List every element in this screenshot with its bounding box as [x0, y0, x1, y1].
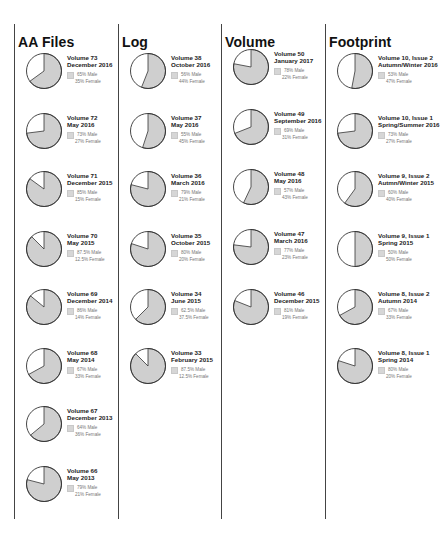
male-percent: 73% Male [77, 132, 97, 139]
legend: 73% Male 27% Female [378, 132, 440, 146]
pie-chart [129, 52, 167, 90]
volume-label: Volume 67 [67, 407, 112, 414]
legend: 78% Male 22% Female [274, 68, 313, 82]
date-label: June 2015 [171, 297, 209, 304]
male-swatch-icon [67, 190, 74, 197]
legend: 67% Male 33% Female [67, 367, 101, 381]
female-swatch-icon [378, 80, 383, 85]
pie-item: Volume 10, Issue 2 Autumn/Winter 2016 53… [326, 52, 430, 102]
pie-slice-male [355, 232, 373, 267]
male-percent: 67% Male [388, 308, 408, 315]
legend-female: 35% Female [67, 79, 112, 86]
male-percent: 60% Male [388, 190, 408, 197]
male-percent: 62.5% Male [181, 308, 205, 315]
volume-label: Volume 34 [171, 290, 209, 297]
pie-info: Volume 8, Issue 2 Autumn 2014 67% Male 3… [378, 290, 429, 322]
female-swatch-icon [378, 258, 383, 263]
legend-female: 47% Female [378, 79, 438, 86]
volume-label: Volume 48 [274, 170, 308, 177]
pie-info: Volume 67 December 2013 64% Male 36% Fem… [67, 407, 112, 439]
female-percent: 31% Female [282, 135, 308, 142]
female-percent: 44% Female [179, 79, 205, 86]
pie-info: Volume 35 October 2015 80% Male 20% Fema… [171, 232, 210, 264]
legend: 53% Male 47% Female [378, 72, 438, 86]
volume-label: Volume 49 [274, 110, 321, 117]
date-label: December 2013 [67, 414, 112, 421]
female-percent: 23% Female [282, 255, 308, 262]
female-swatch-icon [67, 198, 72, 203]
legend: 50% Male 50% Female [378, 250, 429, 264]
female-swatch-icon [67, 433, 72, 438]
pie-item: Volume 73 December 2016 65% Male 35% Fem… [15, 52, 119, 102]
female-swatch-icon [274, 76, 279, 81]
female-percent: 12.5% Female [75, 257, 105, 264]
legend-male: 60% Male [378, 190, 434, 197]
legend-male: 67% Male [67, 367, 101, 374]
legend-female: 15% Female [67, 197, 112, 204]
pie-item: Volume 10, Issue 1 Spring/Summer 2016 73… [326, 112, 430, 162]
legend: 81% Male 19% Female [274, 308, 319, 322]
legend-female: 27% Female [378, 139, 440, 146]
pie-info: Volume 8, Issue 1 Spring 2014 80% Male 2… [378, 349, 429, 381]
legend: 55% Male 45% Female [171, 132, 205, 146]
male-swatch-icon [171, 72, 178, 79]
pie-item: Volume 8, Issue 2 Autumn 2014 67% Male 3… [326, 288, 430, 338]
female-swatch-icon [274, 196, 279, 201]
volume-label: Volume 73 [67, 54, 112, 61]
legend: 64% Male 36% Female [67, 425, 112, 439]
female-swatch-icon [67, 258, 72, 263]
legend-male: 77% Male [274, 248, 308, 255]
pie-chart [336, 112, 374, 150]
female-percent: 45% Female [179, 139, 205, 146]
column-aa-files: AA Files Volume 73 December 2016 65% Mal… [14, 24, 15, 519]
legend: 79% Male 21% Female [171, 190, 205, 204]
female-swatch-icon [274, 256, 279, 261]
male-swatch-icon [274, 248, 281, 255]
male-percent: 73% Male [388, 132, 408, 139]
male-percent: 85% Male [77, 190, 97, 197]
male-swatch-icon [67, 132, 74, 139]
legend-female: 14% Female [67, 315, 112, 322]
female-percent: 40% Female [386, 197, 412, 204]
male-swatch-icon [67, 425, 74, 432]
male-percent: 65% Male [77, 72, 97, 79]
volume-label: Volume 72 [67, 114, 101, 121]
female-swatch-icon [378, 375, 383, 380]
legend-male: 62.5% Male [171, 308, 209, 315]
pie-chart [129, 347, 167, 385]
pie-info: Volume 68 May 2014 67% Male 33% Female [67, 349, 101, 381]
pie-item: Volume 48 May 2016 57% Male 43% Female [222, 168, 326, 218]
female-percent: 36% Female [75, 432, 101, 439]
volume-label: Volume 70 [67, 232, 105, 239]
male-percent: 50% Male [388, 250, 408, 257]
volume-label: Volume 9, Issue 1 [378, 232, 429, 239]
male-swatch-icon [378, 250, 385, 257]
legend-male: 73% Male [67, 132, 101, 139]
pie-info: Volume 48 May 2016 57% Male 43% Female [274, 170, 308, 202]
date-label: March 2016 [274, 237, 308, 244]
male-swatch-icon [67, 367, 74, 374]
column-title: AA Files [18, 34, 74, 50]
pie-info: Volume 46 December 2015 81% Male 19% Fem… [274, 290, 319, 322]
male-percent: 57% Male [284, 188, 304, 195]
male-swatch-icon [171, 308, 178, 315]
date-label: December 2015 [274, 297, 319, 304]
male-swatch-icon [171, 190, 178, 197]
legend-male: 50% Male [378, 250, 429, 257]
pie-item: Volume 47 March 2016 77% Male 23% Female [222, 228, 326, 278]
pie-item: Volume 33 February 2015 87.5% Male 12.5%… [119, 347, 223, 397]
pie-chart [25, 112, 63, 150]
female-percent: 21% Female [75, 492, 101, 499]
pie-item: Volume 69 December 2014 86% Male 14% Fem… [15, 288, 119, 338]
pie-chart [25, 405, 63, 443]
male-percent: 77% Male [284, 248, 304, 255]
legend-male: 57% Male [274, 188, 308, 195]
pie-item: Volume 36 March 2016 79% Male 21% Female [119, 170, 223, 220]
pie-item: Volume 49 September 2016 69% Male 31% Fe… [222, 108, 326, 158]
female-percent: 22% Female [282, 75, 308, 82]
pie-info: Volume 66 May 2013 79% Male 21% Female [67, 467, 101, 499]
legend: 73% Male 27% Female [67, 132, 101, 146]
legend-female: 50% Female [378, 257, 429, 264]
pie-item: Volume 8, Issue 1 Spring 2014 80% Male 2… [326, 347, 430, 397]
volume-label: Volume 10, Issue 1 [378, 114, 440, 121]
